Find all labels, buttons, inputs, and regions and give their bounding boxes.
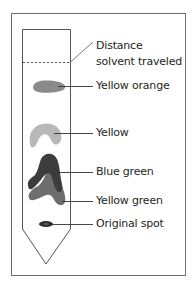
label-solvent-traveled: solvent traveled xyxy=(96,56,182,68)
solvent-front-leader xyxy=(70,42,93,63)
label-yellow-green: Yellow green xyxy=(96,195,163,207)
original-spot-center xyxy=(43,223,49,226)
label-original-spot: Original spot xyxy=(96,218,164,230)
label-blue-green: Blue green xyxy=(96,166,154,178)
label-distance: Distance xyxy=(96,40,143,52)
paper-strip xyxy=(23,30,71,265)
label-yellow-orange: Yellow orange xyxy=(96,80,169,92)
label-yellow: Yellow xyxy=(96,127,129,139)
